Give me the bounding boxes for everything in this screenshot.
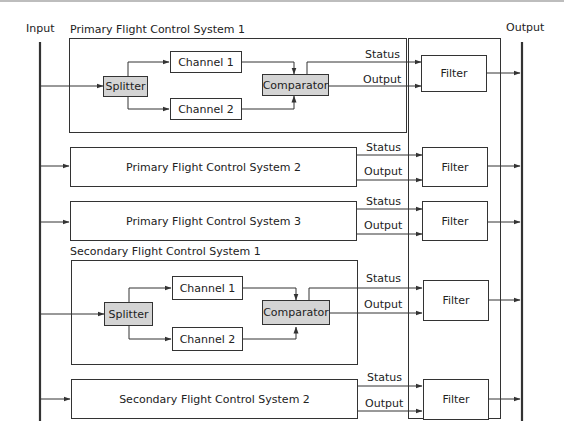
sfcs1-channel-2: Channel 2 — [172, 327, 243, 351]
pfcs3-output-label: Output — [364, 219, 402, 232]
pfcs2-filter: Filter — [422, 147, 488, 187]
sfcs2-output-label: Output — [365, 397, 403, 410]
sfcs2-box: Secondary Flight Control System 2 — [71, 379, 358, 419]
pfcs1-channel-1: Channel 1 — [170, 51, 242, 73]
pfcs3-box: Primary Flight Control System 3 — [70, 201, 357, 241]
pfcs2-box: Primary Flight Control System 2 — [70, 147, 357, 187]
pfcs3-status-label: Status — [366, 195, 401, 208]
input-label: Input — [26, 22, 54, 35]
pfcs2-output-label: Output — [364, 165, 402, 178]
pfcs1-status-label: Status — [365, 48, 400, 61]
output-label: Output — [506, 21, 544, 34]
sfcs1-splitter: Splitter — [104, 302, 153, 326]
sfcs1-channel-1: Channel 1 — [172, 276, 243, 300]
sfcs1-title: Secondary Flight Control System 1 — [70, 245, 261, 258]
pfcs1-comparator: Comparator — [262, 74, 329, 96]
sfcs1-filter: Filter — [423, 280, 489, 321]
pfcs1-output-label: Output — [363, 73, 401, 86]
sfcs1-comparator: Comparator — [262, 300, 330, 325]
pfcs1-title: Primary Flight Control System 1 — [70, 23, 245, 36]
pfcs1-filter: Filter — [421, 55, 487, 92]
sfcs2-status-label: Status — [367, 371, 402, 384]
pfcs3-filter: Filter — [422, 201, 488, 241]
sfcs1-status-label: Status — [366, 272, 401, 285]
pfcs2-status-label: Status — [366, 141, 401, 154]
sfcs2-filter: Filter — [423, 379, 489, 420]
pfcs1-channel-2: Channel 2 — [170, 98, 242, 120]
pfcs1-splitter: Splitter — [103, 76, 148, 97]
sfcs1-output-label: Output — [364, 298, 402, 311]
